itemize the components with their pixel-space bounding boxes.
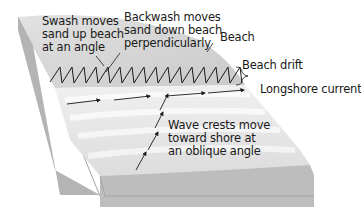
wave-crests-label: Wave crests move toward shore at an obli… <box>168 119 270 158</box>
swash-label: Swash moves sand up beach at an angle <box>42 15 124 54</box>
beach-label: Beach <box>220 31 255 44</box>
backwash-label: Backwash moves sand down beach perpendic… <box>124 11 222 50</box>
longshore-current-label: Longshore current <box>260 83 361 96</box>
beach-drift-label: Beach drift <box>242 59 303 72</box>
